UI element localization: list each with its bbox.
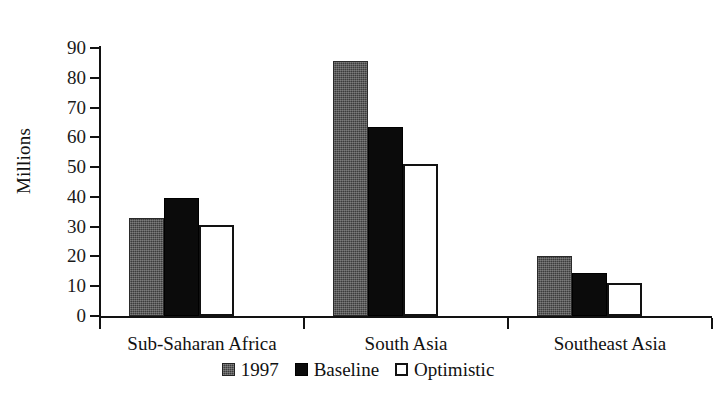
y-axis-tick-label-text: 60 xyxy=(46,127,86,146)
y-axis-tick-label: 0 xyxy=(38,306,86,325)
y-axis-line xyxy=(99,46,101,318)
y-axis-tick xyxy=(90,196,100,198)
chart-legend: 1997BaselineOptimistic xyxy=(0,360,716,379)
y-axis-tick-label: 30 xyxy=(38,217,86,236)
y-axis-tick-label-text: 50 xyxy=(46,157,86,176)
x-axis-tick xyxy=(303,318,305,329)
y-axis-tick xyxy=(90,255,100,257)
legend-item-label: 1997 xyxy=(241,360,279,379)
legend-item: Optimistic xyxy=(395,360,494,379)
y-axis-tick-label: 50 xyxy=(38,157,86,176)
y-axis-tick xyxy=(90,136,100,138)
bar-optimistic xyxy=(403,164,438,316)
plot-area: Millions 0102030405060708090 Sub-Saharan… xyxy=(0,0,716,407)
y-axis-tick xyxy=(90,315,100,317)
y-axis-tick-label-text: 0 xyxy=(46,306,86,325)
bar-optimistic xyxy=(607,283,642,316)
legend-item-label: Baseline xyxy=(314,360,379,379)
y-axis-tick-label-text: 30 xyxy=(46,217,86,236)
y-axis-tick xyxy=(90,107,100,109)
legend-item-label: Optimistic xyxy=(414,360,494,379)
x-axis-tick xyxy=(507,318,509,329)
x-axis-tick xyxy=(711,318,713,329)
chart-figure: Millions 0102030405060708090 Sub-Saharan… xyxy=(0,0,716,407)
y-axis-tick xyxy=(90,166,100,168)
y-axis-tick-label: 60 xyxy=(38,127,86,146)
x-axis-category-label: South Asia xyxy=(304,333,508,355)
y-axis-tick-label: 70 xyxy=(38,98,86,117)
x-axis-line xyxy=(99,316,712,318)
y-axis-tick-label: 40 xyxy=(38,187,86,206)
x-axis-tick xyxy=(99,318,101,329)
bar-optimistic xyxy=(199,225,234,316)
bar-baseline xyxy=(572,273,607,316)
y-axis-tick-label: 20 xyxy=(38,246,86,265)
x-axis-category-label: Southeast Asia xyxy=(508,333,712,355)
y-axis-tick-label-text: 80 xyxy=(46,68,86,87)
legend-item: 1997 xyxy=(222,360,279,379)
y-axis-tick xyxy=(90,77,100,79)
y-axis-tick-label-text: 40 xyxy=(46,187,86,206)
y-axis-tick xyxy=(90,285,100,287)
y-axis-tick-label-text: 20 xyxy=(46,246,86,265)
black-swatch xyxy=(295,363,308,376)
bar-baseline xyxy=(368,127,403,316)
y-axis-tick-label-text: 70 xyxy=(46,98,86,117)
y-axis-tick-label: 80 xyxy=(38,68,86,87)
bar-1997 xyxy=(333,61,368,316)
gray-dither-swatch xyxy=(222,363,235,376)
y-axis-tick xyxy=(90,226,100,228)
white-outline-swatch xyxy=(395,363,408,376)
bar-1997 xyxy=(537,256,572,316)
y-axis-tick-label: 10 xyxy=(38,276,86,295)
legend-item: Baseline xyxy=(295,360,379,379)
y-axis-tick-label-text: 10 xyxy=(46,276,86,295)
y-axis-tick-label: 90 xyxy=(38,38,86,57)
y-axis-tick xyxy=(90,47,100,49)
y-axis-title: Millions xyxy=(13,111,35,211)
bar-baseline xyxy=(164,198,199,316)
x-axis-category-label: Sub-Saharan Africa xyxy=(100,333,304,355)
bar-1997 xyxy=(129,218,164,316)
y-axis-tick-label-text: 90 xyxy=(46,38,86,57)
